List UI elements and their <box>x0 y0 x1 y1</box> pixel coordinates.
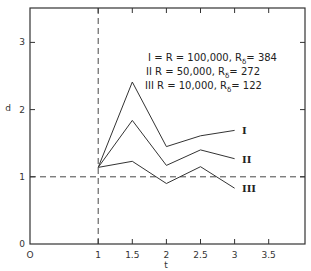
y-tick-label: 0 <box>19 239 25 249</box>
series-label-I: I <box>242 125 247 136</box>
plot-frame <box>30 8 305 244</box>
x-tick-label: 2 <box>164 250 170 260</box>
x-tick-label: O <box>26 250 33 260</box>
x-tick-label: 1.5 <box>125 250 139 260</box>
y-tick-label: 3 <box>19 37 25 47</box>
legend: I = R = 100,000, Rδ= 384II R = 50,000, R… <box>145 52 277 94</box>
series-line-I <box>98 82 234 167</box>
y-tick-label: 2 <box>19 105 25 115</box>
x-axis-label: t <box>164 260 168 270</box>
line-chart: O11.522.533.50123 IIIIII I = R = 100,000… <box>0 0 311 271</box>
data-series: IIIIII <box>98 82 256 194</box>
legend-entry: I = R = 100,000, Rδ= 384 <box>148 52 277 66</box>
plot-border <box>30 8 305 244</box>
axis-ticks: O11.522.533.50123 <box>19 8 305 260</box>
series-line-II <box>98 120 234 167</box>
y-axis-label: d <box>5 103 11 113</box>
x-tick-label: 2.5 <box>193 250 207 260</box>
reference-lines <box>30 8 305 244</box>
y-tick-label: 1 <box>19 172 25 182</box>
x-tick-label: 1 <box>95 250 101 260</box>
x-tick-label: 3.5 <box>262 250 276 260</box>
x-tick-label: 3 <box>232 250 238 260</box>
legend-entry: III R = 10,000, Rδ= 122 <box>145 80 262 94</box>
series-label-II: II <box>242 154 252 165</box>
series-label-III: III <box>242 183 256 194</box>
legend-entry: II R = 50,000, Rδ= 272 <box>146 66 260 80</box>
